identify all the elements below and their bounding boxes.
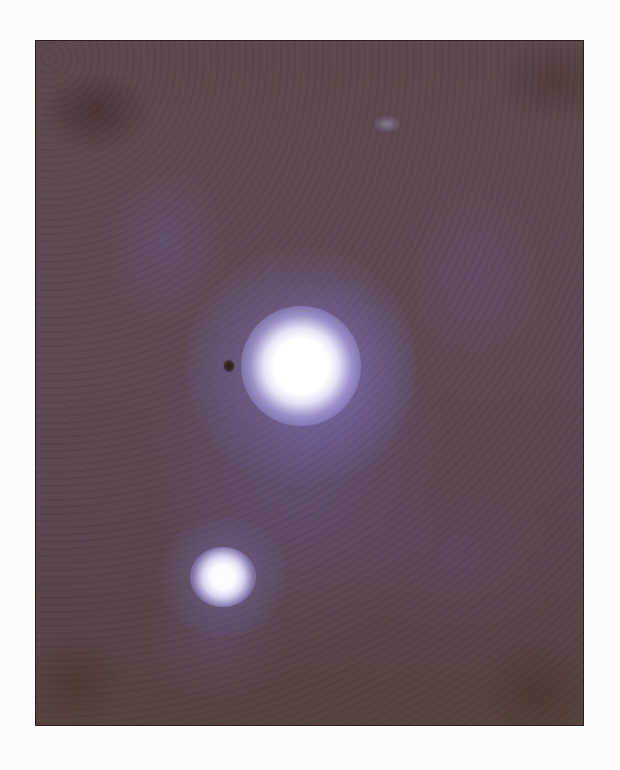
astronomical-photo xyxy=(35,40,584,726)
dark-speck xyxy=(224,360,235,373)
faint-object xyxy=(374,116,400,132)
secondary-source xyxy=(190,547,256,607)
primary-source xyxy=(241,306,361,426)
